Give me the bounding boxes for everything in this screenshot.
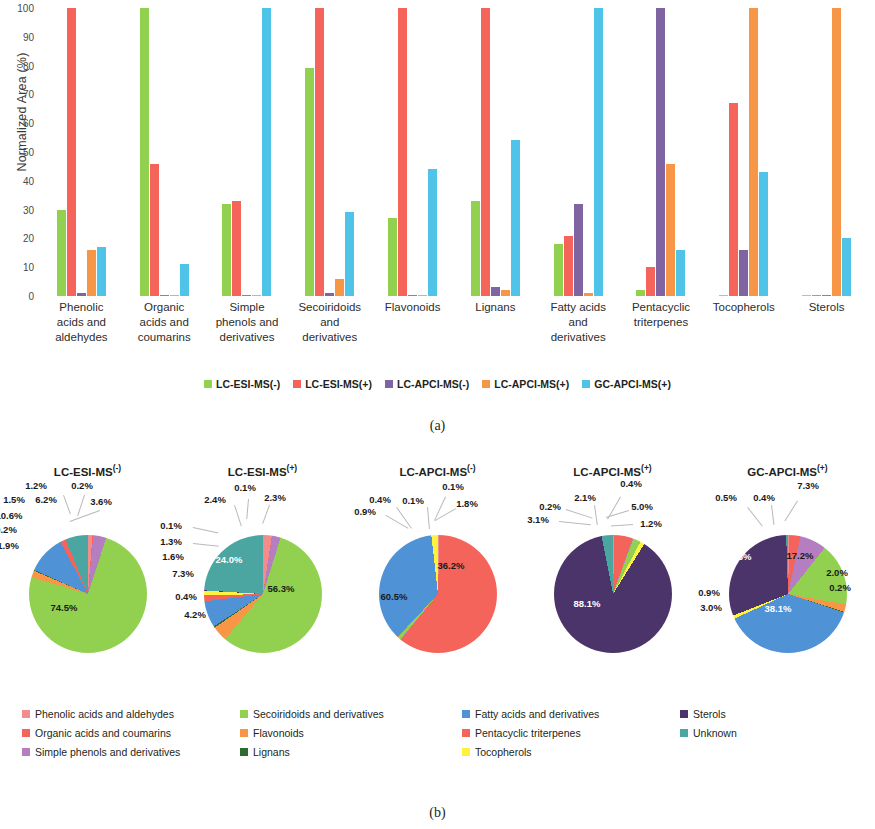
bar (676, 250, 685, 296)
bar (315, 8, 324, 296)
bar (491, 287, 500, 296)
x-axis-category-label: Sterols (785, 300, 868, 345)
bar (57, 210, 66, 296)
pie-slice-value-label: 4.2% (184, 609, 206, 620)
pie-slice-value-label: 3.6% (90, 496, 112, 507)
pie-slice-value-label: 0.1% (442, 481, 464, 492)
pie-chart-2: LC-ESI-MS(+)2.4%0.1%2.3%0.1%1.3%1.6%7.3%… (175, 455, 350, 690)
bar (574, 204, 583, 296)
pie-slice-value-label: 88.1% (574, 598, 601, 609)
pie-chart-title: LC-ESI-MS(+) (175, 463, 350, 478)
pie-chart-title: LC-ESI-MS(-) (0, 463, 175, 478)
pie-slice-value-label: 0.4% (175, 591, 197, 602)
y-axis-tick: 30 (23, 204, 34, 215)
legend-color-swatch (582, 380, 590, 388)
bar (471, 201, 480, 296)
bar-legend-item: GC-APCI-MS(+) (582, 378, 671, 390)
bar (511, 140, 520, 296)
pie-slice-value-label: 1.9% (0, 540, 19, 551)
pie-slice-value-label: 56.3% (268, 583, 295, 594)
pie-legend-label: Unknown (693, 727, 737, 739)
pie-slice-value-label: 2.4% (204, 494, 226, 505)
bar (77, 293, 86, 296)
panel-b-pie-charts: LC-ESI-MS(-)1.2%1.5%6.2%10.6%0.2%1.9%0.2… (0, 455, 875, 829)
pie-chart-title: LC-APCI-MS(+) (525, 463, 700, 478)
pie-label-leader-line (427, 507, 430, 529)
legend-color-swatch (22, 748, 30, 756)
pie-slice-value-label: 0.4% (753, 492, 775, 503)
x-axis-category-label: Lignans (454, 300, 537, 345)
bar-group (371, 8, 454, 296)
y-axis-tick: 0 (28, 291, 34, 302)
bar (242, 295, 251, 296)
pie-chart-title: LC-APCI-MS(-) (350, 463, 525, 478)
pie-legend-item: Flavonoids (240, 727, 462, 739)
legend-color-swatch (680, 729, 688, 737)
legend-color-swatch (204, 380, 212, 388)
pie-label-leader-line (611, 524, 633, 527)
pie-chart-4: LC-APCI-MS(+)0.2%3.1%2.1%0.4%5.0%1.2%88.… (525, 455, 700, 690)
pie-label-leader-line (386, 515, 409, 529)
pie-legend-label: Flavonoids (253, 727, 304, 739)
pie-legend-label: Pentacyclic triterpenes (475, 727, 581, 739)
pie-label-leader-line (70, 510, 100, 522)
bar (170, 295, 179, 296)
legend-color-swatch (240, 710, 248, 718)
bar-legend-item: LC-ESI-MS(-) (204, 378, 280, 390)
pie-slice-value-label: 0.9% (354, 506, 376, 517)
pie-slice-value-label: 10.6% (0, 510, 22, 521)
pie-slice-value-label: 30.5% (725, 551, 752, 562)
pie-chart-3: LC-APCI-MS(-)0.4%0.1%0.1%0.9%1.8%36.2%60… (350, 455, 525, 690)
pie-chart-legend: Phenolic acids and aldehydesSecoiridoids… (22, 708, 862, 758)
pie-slice-value-label: 2.1% (574, 492, 596, 503)
pie-legend-item: Sterols (680, 708, 862, 720)
pie-legend-item: Lignans (240, 746, 462, 758)
x-axis-category-label: Secoiridoidsandderivatives (288, 300, 371, 345)
pie-slice-value-label: 0.2% (829, 582, 851, 593)
pie-chart-1: LC-ESI-MS(-)1.2%1.5%6.2%10.6%0.2%1.9%0.2… (0, 455, 175, 690)
pie-legend-label: Fatty acids and derivatives (475, 708, 599, 720)
pie-legend-item: Organic acids and coumarins (22, 727, 240, 739)
bar (759, 172, 768, 296)
pie-label-leader-line (771, 505, 774, 525)
bar (398, 8, 407, 296)
bar (67, 8, 76, 296)
bar (325, 293, 334, 296)
bar (87, 250, 96, 296)
pie-label-leader-line (559, 521, 591, 525)
bar-group (702, 8, 785, 296)
bar (418, 295, 427, 296)
pie-slice-value-label: 1.8% (456, 498, 478, 509)
pie-label-leader-line (784, 500, 798, 521)
y-axis-tick: 90 (23, 31, 34, 42)
pie-slice-value-label: 0.2% (71, 480, 93, 491)
pie-slice-value-label: 0.4% (369, 494, 391, 505)
pie-slice-value-label: 6.2% (35, 494, 57, 505)
bar (812, 295, 821, 296)
pie-legend-label: Organic acids and coumarins (35, 727, 171, 739)
pie-chart-5: GC-APCI-MS(+)0.5%0.4%7.3%17.2%2.0%0.2%38… (700, 455, 875, 690)
caption-panel-b: (b) (0, 805, 875, 821)
pie-legend-label: Tocopherols (475, 746, 532, 758)
pie-slice-value-label: 5.0% (631, 501, 653, 512)
y-axis-tick: 70 (23, 89, 34, 100)
bar (554, 244, 563, 296)
y-axis-tick: 60 (23, 118, 34, 129)
legend-color-swatch (482, 380, 490, 388)
y-axis-tick: 10 (23, 262, 34, 273)
bar-group (40, 8, 123, 296)
pie-slice-value-label: 1.6% (162, 551, 184, 562)
legend-color-swatch (680, 710, 688, 718)
legend-color-swatch (462, 729, 470, 737)
pie-slice-value-label: 0.1% (402, 495, 424, 506)
bar-chart-legend: LC-ESI-MS(-)LC-ESI-MS(+)LC-APCI-MS(-)LC-… (0, 378, 875, 390)
bar (749, 8, 758, 296)
bar-legend-label: LC-ESI-MS(+) (305, 378, 372, 390)
bar (594, 8, 603, 296)
y-axis-tick: 50 (23, 147, 34, 158)
bar-legend-label: LC-ESI-MS(-) (216, 378, 280, 390)
pie-chart-row: LC-ESI-MS(-)1.2%1.5%6.2%10.6%0.2%1.9%0.2… (0, 455, 875, 690)
bar (408, 295, 417, 296)
bar (584, 293, 593, 296)
pie-slice-value-label: 60.5% (381, 591, 408, 602)
